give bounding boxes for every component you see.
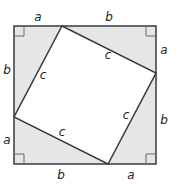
label-left-b: b [3,63,11,77]
pythagorean-diagram: a b a b b a b a c c c c [0,0,178,185]
label-hyp-left: c [40,68,47,82]
label-hyp-bottom: c [59,125,66,139]
label-bottom-a: a [127,168,134,182]
label-top-a: a [34,10,41,24]
label-top-b: b [105,10,113,24]
label-bottom-b: b [57,168,65,182]
label-right-a: a [160,43,167,57]
label-hyp-top: c [105,48,112,62]
label-right-b: b [160,113,168,127]
label-left-a: a [3,133,10,147]
label-hyp-right: c [123,108,130,122]
